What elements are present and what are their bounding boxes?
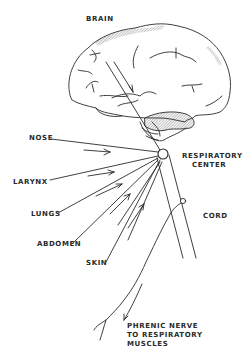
brain-outline <box>69 24 231 122</box>
diagram-drawing <box>0 0 245 353</box>
label-brain: BRAIN <box>86 15 114 23</box>
cerebellum <box>140 112 194 141</box>
label-phrenic-1: PHRENIC NERVE <box>127 322 198 330</box>
label-lungs: LUNGS <box>31 210 61 218</box>
label-respiratory-center-2: CENTER <box>192 161 226 169</box>
respiratory-center-node <box>158 149 168 159</box>
label-cord: CORD <box>203 212 228 220</box>
label-skin: SKIN <box>86 259 107 267</box>
descending-pathway <box>106 62 160 150</box>
phrenic-nerve <box>94 203 181 340</box>
label-phrenic-2: TO RESPIRATORY <box>127 331 203 339</box>
label-nose: NOSE <box>29 134 53 142</box>
label-respiratory-center-1: RESPIRATORY <box>182 152 243 160</box>
label-abdomen: ABDOMEN <box>37 240 81 248</box>
label-phrenic-3: MUSCLES <box>127 340 168 348</box>
diagram-canvas: BRAIN NOSE LARYNX LUNGS ABDOMEN SKIN RES… <box>0 0 245 353</box>
label-larynx: LARYNX <box>13 178 48 186</box>
